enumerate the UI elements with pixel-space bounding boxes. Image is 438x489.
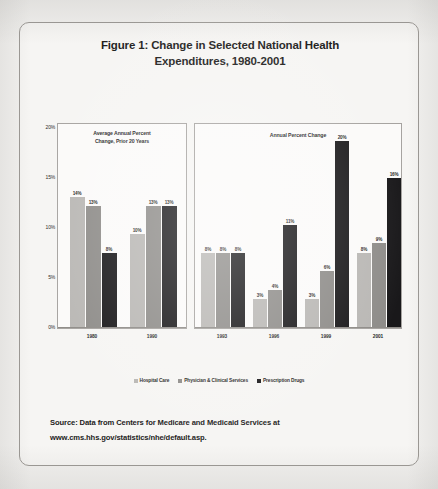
- bar-label: 6%: [324, 265, 330, 270]
- legend-item-prescription-drugs: Prescription Drugs: [257, 378, 304, 383]
- panel-left-baseline: [58, 327, 186, 328]
- x-tick-1999: 1999: [321, 334, 331, 339]
- bar-group-2001: 8% 9% 16%: [355, 141, 403, 327]
- bar-1980-prescription-drugs: 8%: [102, 141, 117, 327]
- bar-1999-physician: 6%: [320, 141, 334, 327]
- bar-label: 8%: [235, 247, 241, 252]
- bar-2001-hospital-care: 8%: [357, 141, 371, 327]
- bar-group-1993: 8% 8% 8%: [199, 141, 247, 327]
- y-axis: 20% 15% 10% 5% 0%: [36, 123, 56, 329]
- bar-1993-prescription-drugs: 8%: [231, 141, 245, 327]
- bar-group-1996: 3% 4% 11%: [251, 141, 299, 327]
- y-tick-10: 10%: [46, 224, 55, 230]
- bar-label: 4%: [272, 284, 278, 289]
- y-tick-15: 15%: [46, 174, 55, 180]
- bar-label: 11%: [286, 219, 295, 224]
- figure-title-line-2: Expenditures, 1980-2001: [46, 53, 394, 69]
- bar-label: 9%: [376, 237, 382, 242]
- y-tick-20: 20%: [46, 124, 55, 130]
- bar-1999-hospital-care: 3%: [305, 141, 319, 327]
- bar-label: 8%: [205, 247, 211, 252]
- chart-panel-right: Annual Percent Change 8% 8%: [194, 123, 402, 329]
- chart-panel-left: Average Annual Percent Change, Prior 20 …: [57, 123, 187, 329]
- bar-label: 20%: [338, 135, 347, 140]
- legend-swatch-icon: [178, 379, 182, 383]
- chart-legend: Hospital Care Physician & Clinical Servi…: [36, 378, 402, 383]
- bar-2001-physician: 9%: [372, 141, 386, 327]
- bar-1980-physician: 13%: [86, 141, 101, 327]
- bar-label: 8%: [361, 247, 367, 252]
- bar-1996-prescription-drugs: 11%: [283, 141, 297, 327]
- panel-left-subtitle-line-1: Average Annual Percent: [93, 130, 150, 136]
- panel-left-plot: 14% 13% 8%: [58, 142, 186, 328]
- x-tick-1980: 1980: [87, 334, 97, 339]
- bar-group-1980: 14% 13% 8%: [68, 141, 118, 327]
- bar-label: 3%: [257, 293, 263, 298]
- x-axis-right: 1993 1996 1999 2001: [194, 331, 402, 345]
- x-axis-left: 1980 1990: [57, 331, 187, 345]
- figure-title-line-1: Figure 1: Change in Selected National He…: [46, 37, 394, 53]
- legend-item-hospital-care: Hospital Care: [134, 378, 170, 383]
- x-tick-1990: 1990: [147, 334, 157, 339]
- source-note: Source: Data from Centers for Medicare a…: [50, 415, 390, 445]
- bar-label: 8%: [220, 247, 226, 252]
- bar-label: 14%: [73, 191, 82, 196]
- legend-swatch-icon: [134, 379, 138, 383]
- source-note-line-1: Source: Data from Centers for Medicare a…: [50, 415, 390, 430]
- figure-title: Figure 1: Change in Selected National He…: [46, 37, 394, 69]
- y-tick-0: 0%: [48, 324, 55, 330]
- bar-1990-physician: 13%: [146, 141, 161, 327]
- legend-item-physician-clinical-services: Physician & Clinical Services: [178, 378, 248, 383]
- bar-1993-hospital-care: 8%: [201, 141, 215, 327]
- bar-label: 10%: [133, 228, 142, 233]
- bar-1980-hospital-care: 14%: [70, 141, 85, 327]
- x-tick-1993: 1993: [217, 334, 227, 339]
- scanned-page: Figure 1: Change in Selected National He…: [0, 0, 438, 489]
- bar-1996-physician: 4%: [268, 141, 282, 327]
- bar-label: 13%: [165, 200, 174, 205]
- panel-right-plot: 8% 8% 8%: [195, 142, 401, 328]
- bar-1990-hospital-care: 10%: [130, 141, 145, 327]
- bar-1996-hospital-care: 3%: [253, 141, 267, 327]
- bar-label: 13%: [149, 200, 158, 205]
- bar-label: 16%: [390, 172, 399, 177]
- charts-area: 20% 15% 10% 5% 0% Average Annual Percent…: [36, 123, 402, 363]
- bar-label: 13%: [89, 200, 98, 205]
- bar-group-1990: 10% 13% 13%: [128, 141, 178, 327]
- bar-group-1999: 3% 6% 20%: [303, 141, 351, 327]
- panel-right-baseline: [195, 327, 401, 328]
- figure-frame: Figure 1: Change in Selected National He…: [19, 22, 419, 466]
- bar-1993-physician: 8%: [216, 141, 230, 327]
- bar-1990-prescription-drugs: 13%: [162, 141, 177, 327]
- panel-right-subtitle-line-1: Annual Percent Change: [270, 132, 326, 138]
- x-tick-1996: 1996: [269, 334, 279, 339]
- bar-label: 8%: [106, 247, 112, 252]
- x-tick-2001: 2001: [373, 334, 383, 339]
- bar-2001-prescription-drugs: 16%: [387, 141, 401, 327]
- y-tick-5: 5%: [48, 274, 55, 280]
- bar-1999-prescription-drugs: 20%: [335, 141, 349, 327]
- legend-label: Physician & Clinical Services: [184, 378, 248, 383]
- legend-label: Prescription Drugs: [263, 378, 304, 383]
- source-note-url: www.cms.hhs.gov/statistics/nhe/default.a…: [50, 430, 390, 445]
- bar-label: 3%: [309, 293, 315, 298]
- legend-label: Hospital Care: [140, 378, 170, 383]
- panel-right-subtitle: Annual Percent Change: [199, 132, 397, 140]
- legend-swatch-icon: [257, 379, 261, 383]
